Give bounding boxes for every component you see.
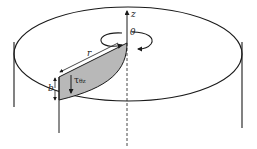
cylinder-diagram xyxy=(0,0,257,149)
radius-label: r xyxy=(87,49,91,58)
theta-label: θ xyxy=(130,28,135,37)
z-axis-label: z xyxy=(131,10,136,19)
rotation-arrow-left xyxy=(101,33,122,46)
height-label: b xyxy=(48,84,54,93)
shear-stress-label: τθz xyxy=(74,76,86,85)
shear-stress-subscript: θz xyxy=(79,77,86,84)
diagram-canvas: z θ r b τθz xyxy=(0,0,257,149)
wedge-element xyxy=(59,43,127,100)
